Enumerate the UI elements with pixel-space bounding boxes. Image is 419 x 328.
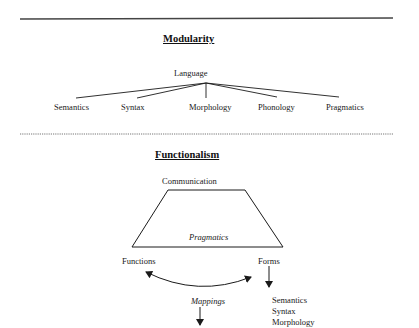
forms-list-syntax: Syntax (272, 306, 296, 316)
modularity-tree-branches (76, 83, 339, 98)
diagram-lines (0, 0, 419, 328)
functionalism-mappings: Mappings (191, 296, 225, 306)
modularity-node-pragmatics: Pragmatics (326, 102, 364, 112)
modularity-node-syntax: Syntax (121, 102, 145, 112)
branch-pragmatics (206, 83, 339, 97)
modularity-node-morphology: Morphology (189, 102, 232, 112)
functionalism-pragmatics: Pragmatics (189, 232, 228, 242)
modularity-title: Modularity (163, 33, 214, 45)
forms-list-semantics: Semantics (272, 295, 307, 305)
branch-phonology (206, 83, 277, 97)
forms-list-morphology: Morphology (272, 317, 315, 327)
functionalism-functions: Functions (122, 256, 156, 266)
branch-syntax (137, 83, 206, 98)
mapping-double-arrow (146, 272, 251, 286)
functionalism-title: Functionalism (155, 149, 219, 161)
functionalism-communication: Communication (162, 176, 217, 186)
functionalism-forms: Forms (258, 256, 280, 266)
diagram-canvas: Modularity Language Semantics Syntax Mor… (0, 0, 419, 328)
top-divider (20, 18, 393, 19)
modularity-root-language: Language (174, 68, 208, 78)
modularity-node-semantics: Semantics (54, 102, 89, 112)
branch-semantics (76, 83, 206, 98)
modularity-node-phonology: Phonology (258, 102, 295, 112)
